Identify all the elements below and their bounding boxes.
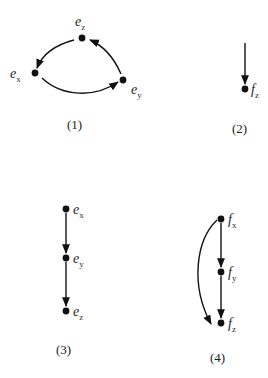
diagram-canvas: ez ex ey (1) fz (2) ex ey ez (3) fx fy f…: [0, 0, 268, 378]
diagram-2: fz (2): [232, 43, 259, 136]
node-ey: [63, 255, 70, 262]
caption-4: (4): [210, 350, 225, 365]
node-fy: [218, 269, 225, 276]
caption-3: (3): [56, 342, 71, 357]
node-ey: [120, 77, 127, 84]
label-ex: ex: [10, 66, 21, 84]
label-ey: ey: [73, 251, 84, 269]
label-ex: ex: [73, 202, 84, 220]
label-fz: fz: [228, 316, 236, 334]
edge-ex-to-ey: [42, 78, 118, 93]
label-fz: fz: [251, 82, 259, 100]
diagram-3: ex ey ez (3): [56, 202, 84, 357]
label-fy: fy: [228, 265, 237, 283]
node-fz: [218, 320, 225, 327]
node-fx: [218, 216, 225, 223]
label-ez: ez: [73, 304, 83, 322]
node-ez: [79, 35, 86, 42]
node-ex: [32, 70, 39, 77]
label-ez: ez: [75, 14, 85, 32]
label-fx: fx: [228, 212, 237, 230]
edge-ey-to-ez: [90, 40, 121, 74]
diagram-1: ez ex ey (1): [10, 14, 142, 132]
caption-1: (1): [67, 117, 82, 132]
edge-ez-to-ex: [37, 40, 74, 68]
edge-fx-to-fz: [198, 220, 217, 324]
label-ey: ey: [131, 82, 142, 100]
diagram-4: fx fy fz (4): [198, 212, 237, 365]
node-fz: [242, 86, 249, 93]
node-ex: [63, 206, 70, 213]
node-ez: [63, 308, 70, 315]
caption-2: (2): [232, 121, 247, 136]
